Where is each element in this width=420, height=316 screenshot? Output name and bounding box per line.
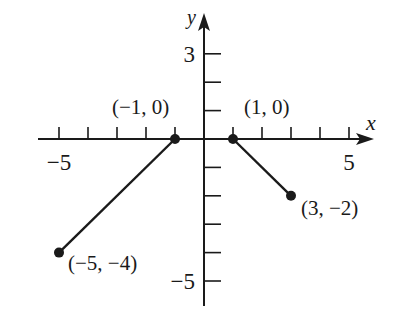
x-axis-label: x <box>365 110 376 135</box>
data-point <box>170 134 180 144</box>
x-tick-label: −5 <box>47 150 71 175</box>
segment-right <box>233 139 291 196</box>
point-annotation: (−5, −4) <box>68 251 137 275</box>
segments <box>59 139 291 253</box>
y-tick-label: 3 <box>184 42 196 67</box>
piecewise-graph: yx−553−5(−1, 0)(1, 0)(−5, −4)(3, −2) <box>0 0 420 316</box>
x-tick-label: 5 <box>343 150 355 175</box>
data-point <box>228 134 238 144</box>
labels: yx−553−5(−1, 0)(1, 0)(−5, −4)(3, −2) <box>47 6 376 294</box>
point-annotation: (−1, 0) <box>112 95 169 119</box>
point-annotation: (3, −2) <box>301 196 358 220</box>
y-tick-label: −5 <box>171 269 195 294</box>
segment-left <box>59 139 175 253</box>
point-annotation: (1, 0) <box>244 95 290 119</box>
x-axis-label: y <box>185 6 196 29</box>
points <box>54 134 296 258</box>
data-point <box>286 191 296 201</box>
data-point <box>54 248 64 258</box>
